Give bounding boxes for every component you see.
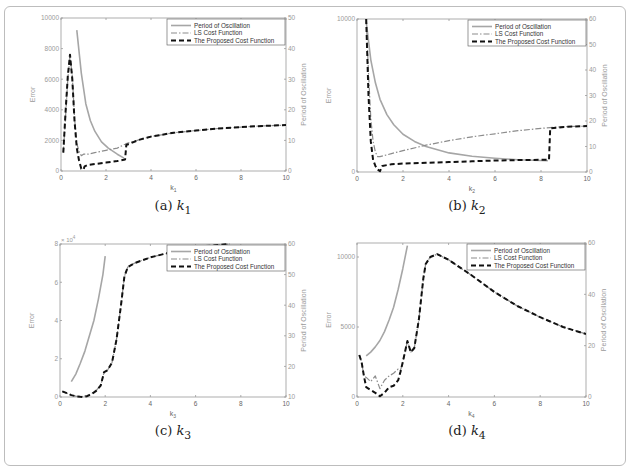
x-tick-label: 8 bbox=[538, 400, 542, 407]
x-tick-label: 2 bbox=[401, 400, 405, 407]
series-line-0 bbox=[366, 246, 407, 356]
caption-d-sub: 4 bbox=[479, 429, 486, 442]
y-tick-label: 5000 bbox=[341, 323, 356, 330]
y2-tick-label: 40 bbox=[588, 291, 596, 298]
x-tick-label: 0 bbox=[355, 400, 359, 407]
y-tick-label: 0 bbox=[351, 393, 355, 400]
x-tick-label: 4 bbox=[447, 400, 451, 407]
chart-legend: Period of OscillationLS Cost FunctionThe… bbox=[467, 244, 585, 270]
y2-tick-label: 20 bbox=[588, 342, 596, 349]
legend-label: Period of Oscillation bbox=[494, 247, 550, 254]
caption-d: (d) k4 bbox=[412, 423, 522, 442]
caption-d-prefix: (d) bbox=[448, 423, 466, 438]
x-axis-label: k4 bbox=[468, 410, 475, 419]
x-tick-label: 10 bbox=[582, 400, 590, 407]
y2-tick-label: 0 bbox=[588, 393, 592, 400]
series-line-2 bbox=[359, 254, 586, 396]
y2-tick-label: 60 bbox=[588, 239, 596, 246]
legend-label: The Proposed Cost Function bbox=[494, 262, 575, 270]
y-tick-label: 10000 bbox=[337, 253, 355, 260]
caption-d-var: k bbox=[471, 423, 479, 438]
y-axis-label: Error bbox=[325, 312, 332, 328]
y2-axis-label: Period of Oscillation bbox=[600, 289, 607, 351]
legend-label: LS Cost Function bbox=[494, 254, 543, 261]
series-line-1 bbox=[359, 254, 586, 388]
x-tick-label: 6 bbox=[493, 400, 497, 407]
